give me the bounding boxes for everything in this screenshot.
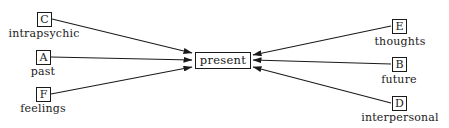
node-D-letter: D	[395, 97, 404, 110]
node-A-label: past	[31, 66, 55, 78]
node-C-label: intrapsychic	[8, 28, 79, 40]
arrow-F-to-present	[51, 67, 192, 94]
node-D-box: D	[392, 96, 407, 111]
node-B-letter: B	[395, 58, 403, 71]
node-E-label: thoughts	[374, 36, 425, 48]
node-F-letter: F	[40, 88, 48, 101]
node-C-letter: C	[40, 13, 48, 26]
node-E-box: E	[392, 19, 407, 34]
node-F-box: F	[36, 87, 51, 102]
node-A-box: A	[36, 50, 51, 65]
node-A-letter: A	[40, 51, 48, 64]
present-label: present	[200, 53, 247, 67]
arrow-B-to-present	[253, 60, 391, 64]
node-C-box: C	[37, 12, 52, 27]
present-node: present	[195, 52, 251, 69]
node-E-letter: E	[395, 20, 403, 33]
node-D-label: interpersonal	[361, 112, 439, 124]
arrow-A-to-present	[51, 57, 192, 60]
node-B-label: future	[381, 74, 417, 86]
node-B-box: B	[392, 57, 407, 72]
node-F-label: feelings	[20, 103, 66, 115]
arrow-E-to-present	[253, 26, 391, 55]
arrow-D-to-present	[253, 67, 391, 103]
